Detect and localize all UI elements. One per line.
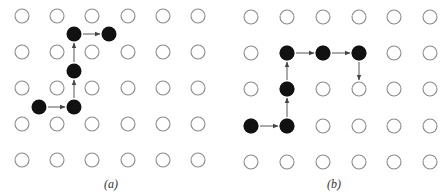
open-lattice-site xyxy=(121,9,135,23)
panel-a-lattice xyxy=(15,9,205,167)
occupied-site xyxy=(32,100,47,115)
occupied-site xyxy=(352,46,367,61)
open-lattice-site xyxy=(280,155,294,169)
open-lattice-site xyxy=(121,81,135,95)
open-lattice-site xyxy=(121,45,135,59)
open-lattice-site xyxy=(15,9,29,23)
occupied-site xyxy=(67,27,82,42)
open-lattice-site xyxy=(156,9,170,23)
open-lattice-site xyxy=(15,153,29,167)
open-lattice-site xyxy=(352,155,366,169)
open-lattice-site xyxy=(121,153,135,167)
lattice-path-figure xyxy=(0,0,448,192)
open-lattice-site xyxy=(316,155,330,169)
open-lattice-site xyxy=(423,46,437,60)
open-lattice-site xyxy=(244,155,258,169)
open-lattice-site xyxy=(121,117,135,131)
open-lattice-site xyxy=(50,9,64,23)
panel-b-caption: (b) xyxy=(327,177,341,192)
open-lattice-site xyxy=(352,119,366,133)
occupied-site xyxy=(280,119,295,134)
open-lattice-site xyxy=(387,10,401,24)
open-lattice-site xyxy=(85,45,99,59)
open-lattice-site xyxy=(191,9,205,23)
open-lattice-site xyxy=(50,153,64,167)
occupied-site xyxy=(67,64,82,79)
open-lattice-site xyxy=(387,82,401,96)
occupied-site xyxy=(244,119,259,134)
panel-a-caption: (a) xyxy=(104,177,118,192)
occupied-site xyxy=(280,82,295,97)
open-lattice-site xyxy=(316,10,330,24)
occupied-site xyxy=(316,46,331,61)
open-lattice-site xyxy=(423,10,437,24)
open-lattice-site xyxy=(244,46,258,60)
occupied-site xyxy=(102,27,117,42)
open-lattice-site xyxy=(316,82,330,96)
open-lattice-site xyxy=(15,117,29,131)
open-lattice-site xyxy=(423,119,437,133)
open-lattice-site xyxy=(85,9,99,23)
open-lattice-site xyxy=(15,81,29,95)
open-lattice-site xyxy=(316,119,330,133)
open-lattice-site xyxy=(156,153,170,167)
open-lattice-site xyxy=(387,46,401,60)
open-lattice-site xyxy=(85,81,99,95)
open-lattice-site xyxy=(15,45,29,59)
open-lattice-site xyxy=(191,45,205,59)
open-lattice-site xyxy=(85,153,99,167)
open-lattice-site xyxy=(423,82,437,96)
open-lattice-site xyxy=(191,153,205,167)
open-lattice-site xyxy=(352,10,366,24)
occupied-site xyxy=(67,100,82,115)
open-lattice-site xyxy=(280,10,294,24)
open-lattice-site xyxy=(387,155,401,169)
open-lattice-site xyxy=(244,82,258,96)
open-lattice-site xyxy=(191,81,205,95)
open-lattice-site xyxy=(85,117,99,131)
open-lattice-site xyxy=(387,119,401,133)
open-lattice-site xyxy=(50,45,64,59)
occupied-site xyxy=(280,46,295,61)
open-lattice-site xyxy=(156,81,170,95)
panel-b-lattice xyxy=(244,10,438,169)
open-lattice-site xyxy=(50,81,64,95)
open-lattice-site xyxy=(423,155,437,169)
open-lattice-site xyxy=(156,45,170,59)
open-lattice-site xyxy=(50,117,64,131)
open-lattice-site xyxy=(191,117,205,131)
open-lattice-site xyxy=(244,10,258,24)
open-lattice-site xyxy=(352,82,366,96)
open-lattice-site xyxy=(156,117,170,131)
